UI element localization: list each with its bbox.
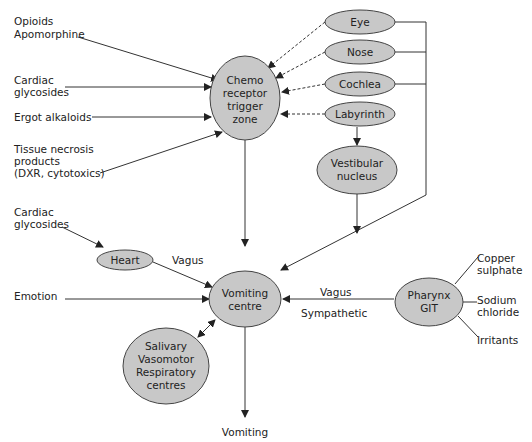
label-vomiting-output: Vomiting: [222, 426, 268, 438]
node-vestibular-nucleus: Vestibular nucleus: [317, 146, 397, 194]
node-pharynx-git: Pharynx GIT: [395, 278, 463, 326]
edge-nose-ctz: [276, 52, 325, 78]
salivary-label-4: centres: [146, 379, 185, 391]
label-sympathetic: Sympathetic: [301, 307, 367, 319]
ctz-label-4: zone: [232, 113, 257, 125]
edge-cochlea-ctz: [282, 84, 325, 92]
ctz-label-2: receptor: [223, 87, 268, 99]
input-irritants: Irritants: [477, 334, 518, 346]
label-vagus-heart: Vagus: [172, 254, 204, 266]
pharynx-label-2: GIT: [420, 302, 438, 314]
edge-vc-salivary: [198, 320, 215, 337]
input-sodium-2: chloride: [477, 306, 519, 318]
node-salivary-centres: Salivary Vasomotor Respiratory centres: [123, 328, 209, 404]
labyrinth-label: Labyrinth: [335, 108, 385, 120]
vestibular-label-2: nucleus: [337, 170, 378, 182]
node-vomiting-centre: Vomiting centre: [209, 271, 281, 327]
input-ergot: Ergot alkaloids: [14, 111, 91, 123]
salivary-label-1: Salivary: [145, 340, 187, 352]
edge-opioids-ctz: [78, 37, 218, 80]
input-emotion: Emotion: [14, 290, 57, 302]
vomiting-pathway-diagram: Chemo receptor trigger zone Eye Nose Coc…: [0, 0, 532, 442]
node-nose: Nose: [325, 40, 395, 64]
edge-eye-ctz: [268, 22, 325, 68]
input-tissue-3: (DXR, cytotoxics): [14, 167, 105, 179]
input-opioids-1: Opioids: [14, 15, 53, 27]
input-cardiac1-2: glycosides: [14, 86, 69, 98]
input-cardiac2-1: Cardiac: [14, 206, 54, 218]
edge-cardiac-heart: [62, 227, 103, 247]
vc-label-1: Vomiting: [222, 287, 268, 299]
input-copper-2: sulphate: [477, 264, 522, 276]
input-cardiac2-2: glycosides: [14, 218, 69, 230]
node-heart: Heart: [97, 250, 153, 270]
eye-label: Eye: [350, 16, 369, 28]
node-cochlea: Cochlea: [325, 72, 395, 96]
input-sodium-1: Sodium: [477, 294, 517, 306]
node-ctz: Chemo receptor trigger zone: [210, 56, 280, 140]
salivary-label-2: Vasomotor: [138, 353, 195, 365]
input-cardiac1-1: Cardiac: [14, 74, 54, 86]
pharynx-label-1: Pharynx: [408, 289, 451, 301]
input-copper-1: Copper: [477, 252, 516, 264]
salivary-label-3: Respiratory: [136, 366, 196, 378]
cochlea-label: Cochlea: [339, 78, 381, 90]
ctz-label-3: trigger: [227, 100, 263, 112]
label-vagus-pharynx: Vagus: [320, 286, 352, 298]
nose-label: Nose: [347, 46, 373, 58]
heart-label: Heart: [110, 254, 139, 266]
ctz-label-1: Chemo: [226, 74, 263, 86]
vestibular-label-1: Vestibular: [331, 157, 384, 169]
node-eye: Eye: [325, 10, 395, 34]
vc-label-2: centre: [228, 300, 262, 312]
input-tissue-1: Tissue necrosis: [13, 143, 94, 155]
input-opioids-2: Apomorphine: [14, 28, 85, 40]
input-tissue-2: products: [14, 155, 60, 167]
edge-irritants-pharynx: [458, 316, 478, 337]
edge-tissue-ctz: [100, 132, 222, 173]
edge-copper-pharynx: [455, 257, 478, 284]
node-labyrinth: Labyrinth: [325, 102, 395, 126]
